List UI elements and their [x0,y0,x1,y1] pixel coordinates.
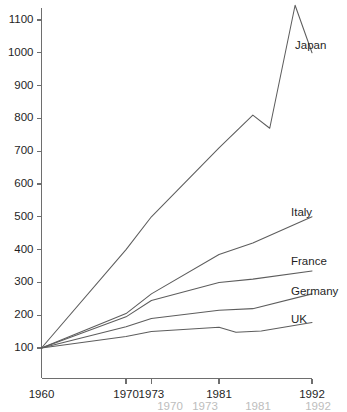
x-tick-label-1960: 1960 [29,389,55,401]
axes-group [37,8,313,384]
series-label-germany: Germany [291,286,338,298]
x-tick-label-1992: 1992 [299,389,325,401]
series-line-italy [42,217,313,348]
x-tick-label-1973: 1973 [139,389,165,401]
y-axis-ticks [37,20,42,348]
y-tick-label-900: 900 [14,80,33,92]
y-tick-label-500: 500 [14,211,33,223]
series-label-uk: UK [291,314,307,326]
y-tick-label-1000: 1000 [8,47,34,59]
y-tick-label-1100: 1100 [9,14,34,26]
series-label-france: France [291,256,327,268]
artifact-label-1973: 1973 [192,400,218,412]
series-line-germany [42,294,313,348]
series-line-japan [42,5,313,348]
series-label-italy: Italy [291,207,312,219]
y-tick-label-800: 800 [14,113,33,125]
series-group [42,5,313,348]
clipped-duplicate-axis-artifact: 1970197319811992 [0,400,347,412]
artifact-label-1970: 1970 [157,400,183,412]
series-line-france [42,271,313,348]
y-tick-label-700: 700 [14,145,33,157]
x-tick-label-1970: 1970 [113,389,139,401]
x-tick-label-1981: 1981 [206,389,232,401]
x-axis-ticks [126,379,312,385]
series-label-japan: Japan [295,40,326,52]
y-tick-label-200: 200 [14,309,33,321]
y-tick-label-600: 600 [14,178,33,190]
y-tick-label-400: 400 [14,244,33,256]
artifact-label-1992: 1992 [305,400,331,412]
y-tick-label-300: 300 [14,277,33,289]
y-tick-label-100: 100 [14,342,33,354]
series-line-uk [42,322,313,348]
artifact-label-1981: 1981 [245,400,271,412]
